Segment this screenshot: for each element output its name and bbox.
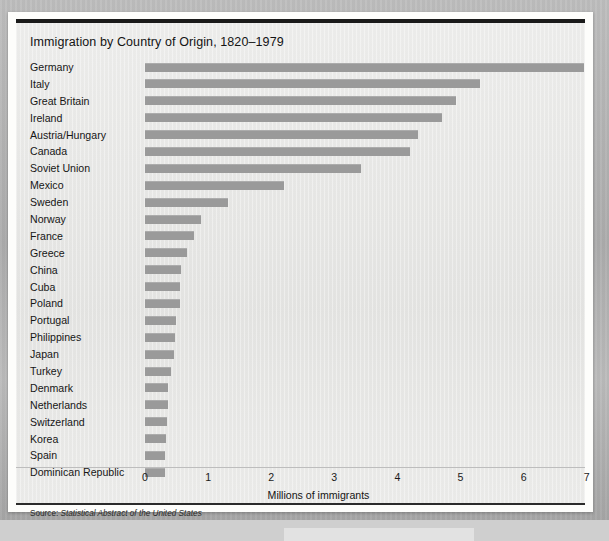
bar-row: France xyxy=(16,230,585,247)
bar-row: Spain xyxy=(16,449,585,466)
figure-bottom-rule xyxy=(16,503,585,505)
bar-row: Philippines xyxy=(16,331,585,348)
bar xyxy=(145,147,410,156)
x-axis-tick-label: 7 xyxy=(584,471,590,483)
bar-category-label: Austria/Hungary xyxy=(30,129,140,142)
source-note-title: Statistical Abstract of the United State… xyxy=(61,509,202,518)
bar xyxy=(145,417,167,426)
bar xyxy=(145,79,480,88)
bar xyxy=(145,231,194,240)
bar-category-label: Korea xyxy=(30,433,140,446)
bar-row: Canada xyxy=(16,145,585,162)
bar xyxy=(145,400,168,409)
x-axis-tick-label: 1 xyxy=(205,471,211,483)
bar-row: Greece xyxy=(16,247,585,264)
bar-row: Japan xyxy=(16,348,585,365)
bar-category-label: Sweden xyxy=(30,196,140,209)
x-axis-tick-labels: 01234567 xyxy=(16,471,585,487)
bar xyxy=(145,333,175,342)
bar-row: Poland xyxy=(16,297,585,314)
bar xyxy=(145,130,418,139)
bar xyxy=(145,265,181,274)
x-axis-line xyxy=(16,467,585,468)
x-axis-tick-label: 0 xyxy=(142,471,148,483)
bar xyxy=(145,198,228,207)
x-axis-title: Millions of immigrants xyxy=(16,489,585,501)
x-axis-tick-label: 5 xyxy=(458,471,464,483)
bar-category-label: Poland xyxy=(30,297,140,310)
bar-category-label: France xyxy=(30,230,140,243)
bar xyxy=(145,181,284,190)
bar-row: Cuba xyxy=(16,281,585,298)
figure-top-rule xyxy=(16,19,585,23)
bar xyxy=(145,299,180,308)
bar-category-label: Ireland xyxy=(30,112,140,125)
bar-chart-plot-area: GermanyItalyGreat BritainIrelandAustria/… xyxy=(16,61,585,467)
bar-category-label: Spain xyxy=(30,449,140,462)
bar-category-label: Germany xyxy=(30,61,140,74)
backdrop-lower-strip-highlight xyxy=(284,528,474,541)
bar-row: Portugal xyxy=(16,314,585,331)
bar-category-label: Cuba xyxy=(30,281,140,294)
bar-row: Netherlands xyxy=(16,399,585,416)
bar-category-label: Soviet Union xyxy=(30,162,140,175)
bar-row: Soviet Union xyxy=(16,162,585,179)
x-axis-title-text: Millions of immigrants xyxy=(268,489,370,501)
bar xyxy=(145,316,176,325)
bar-row: China xyxy=(16,264,585,281)
figure-panel: Immigration by Country of Origin, 1820–1… xyxy=(16,19,585,505)
x-axis-tick-label: 2 xyxy=(268,471,274,483)
bar-row: Korea xyxy=(16,433,585,450)
bar xyxy=(145,282,180,291)
bar-row: Austria/Hungary xyxy=(16,129,585,146)
bar xyxy=(145,434,166,443)
chart-title: Immigration by Country of Origin, 1820–1… xyxy=(30,35,284,49)
bar xyxy=(145,215,201,224)
source-note: Source: Statistical Abstract of the Unit… xyxy=(30,509,202,518)
bar-category-label: Mexico xyxy=(30,179,140,192)
bar-row: Ireland xyxy=(16,112,585,129)
bar xyxy=(145,383,168,392)
figure-card: Immigration by Country of Origin, 1820–1… xyxy=(8,12,593,512)
bar-category-label: Switzerland xyxy=(30,416,140,429)
bar xyxy=(145,113,442,122)
bar-category-label: Canada xyxy=(30,145,140,158)
bar xyxy=(145,96,456,105)
bar xyxy=(145,63,584,72)
source-note-prefix: Source: xyxy=(30,509,58,518)
bar-row: Great Britain xyxy=(16,95,585,112)
bar xyxy=(145,164,361,173)
bar-row: Turkey xyxy=(16,365,585,382)
bar-row: Switzerland xyxy=(16,416,585,433)
bar-row: Italy xyxy=(16,78,585,95)
bar xyxy=(145,367,171,376)
bar-category-label: Great Britain xyxy=(30,95,140,108)
bar xyxy=(145,451,165,460)
x-axis-tick-label: 4 xyxy=(394,471,400,483)
bar-category-label: Philippines xyxy=(30,331,140,344)
bar-row: Denmark xyxy=(16,382,585,399)
bar-row: Germany xyxy=(16,61,585,78)
bar-category-label: China xyxy=(30,264,140,277)
bar-row: Norway xyxy=(16,213,585,230)
x-axis-tick-label: 6 xyxy=(521,471,527,483)
bar xyxy=(145,350,174,359)
bar-category-label: Italy xyxy=(30,78,140,91)
bar-category-label: Norway xyxy=(30,213,140,226)
bar-category-label: Portugal xyxy=(30,314,140,327)
bar-category-label: Greece xyxy=(30,247,140,260)
bar-row: Mexico xyxy=(16,179,585,196)
bar-category-label: Turkey xyxy=(30,365,140,378)
bar-category-label: Denmark xyxy=(30,382,140,395)
bar-category-label: Japan xyxy=(30,348,140,361)
x-axis-tick-label: 3 xyxy=(331,471,337,483)
bar-category-label: Netherlands xyxy=(30,399,140,412)
bar-row: Sweden xyxy=(16,196,585,213)
bar xyxy=(145,248,187,257)
